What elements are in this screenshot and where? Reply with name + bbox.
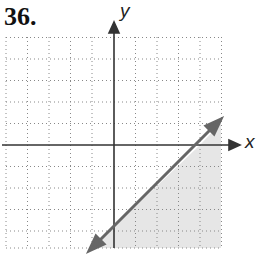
coordinate-graph [0,0,258,260]
